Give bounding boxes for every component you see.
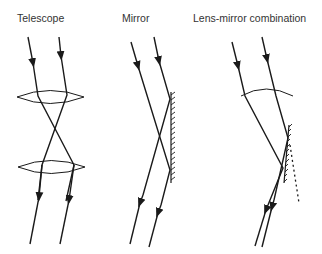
telescope-diagram [17, 37, 85, 244]
lens-mirror-diagram [232, 37, 299, 247]
top-lens-icon [17, 91, 84, 104]
optics-diagram [0, 0, 322, 254]
bottom-lens-icon [18, 161, 85, 174]
lens-arc [241, 89, 293, 96]
mirror-hatching [171, 92, 175, 180]
dotted-guide [290, 145, 299, 203]
mirror-diagram [130, 37, 175, 247]
